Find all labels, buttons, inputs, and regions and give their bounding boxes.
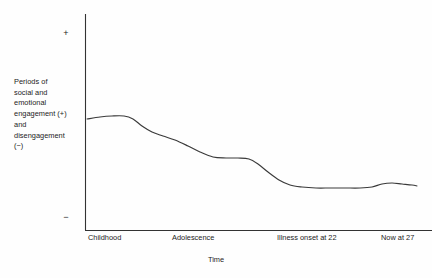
y-axis-label: Periods of social and emotional engageme… bbox=[14, 77, 80, 152]
y-axis-label-line: (−) bbox=[14, 141, 80, 152]
y-axis-label-line: emotional bbox=[14, 98, 80, 109]
x-axis-title: Time bbox=[0, 255, 432, 265]
y-axis-label-line: social and bbox=[14, 88, 80, 99]
x-tick-label-adolescence: Adolescence bbox=[172, 233, 214, 243]
x-tick-label-childhood: Childhood bbox=[88, 233, 121, 243]
engagement-over-time-chart: Periods of social and emotional engageme… bbox=[0, 0, 432, 278]
y-axis-label-line: and bbox=[14, 120, 80, 131]
y-axis-label-line: Periods of bbox=[14, 77, 80, 88]
y-axis-label-line: disengagement bbox=[14, 131, 80, 142]
engagement-trend-line bbox=[87, 116, 417, 188]
y-axis-negative-marker: − bbox=[59, 211, 73, 223]
x-tick-label-now: Now at 27 bbox=[381, 233, 414, 243]
y-axis-positive-marker: + bbox=[59, 27, 73, 39]
x-tick-label-illness-onset: Illness onset at 22 bbox=[277, 233, 337, 243]
y-axis-label-line: engagement (+) bbox=[14, 109, 80, 120]
